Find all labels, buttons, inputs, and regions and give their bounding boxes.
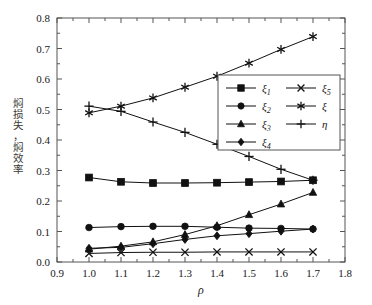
data-point-marker — [276, 165, 285, 174]
x-axis-title: ρ — [197, 283, 204, 297]
chart-legend: ξ1ξ5ξ2ξξ3ηξ4 — [218, 75, 340, 151]
x-tick-label: 0.9 — [50, 267, 64, 279]
legend-label: ξ — [322, 100, 327, 113]
data-point-marker — [238, 103, 244, 109]
data-point-marker — [245, 59, 253, 68]
data-point-marker — [150, 223, 157, 230]
data-point-marker — [181, 83, 189, 92]
y-tick-label: 0.2 — [36, 195, 50, 207]
data-point-marker — [238, 85, 244, 91]
x-tick-label: 1.2 — [146, 267, 160, 279]
x-tick-label: 1.4 — [210, 267, 224, 279]
data-point-marker — [118, 223, 125, 230]
x-tick-label: 1.5 — [242, 267, 256, 279]
data-point-marker — [86, 224, 93, 231]
y-tick-label: 0.7 — [36, 43, 50, 55]
data-point-marker — [309, 188, 316, 195]
x-tick-label: 1.8 — [338, 267, 352, 279]
data-point-marker — [182, 223, 189, 230]
x-tick-label: 1.3 — [178, 267, 192, 279]
series-line — [89, 192, 313, 249]
series-ξ3 — [85, 188, 316, 252]
x-tick-label: 1.6 — [274, 267, 288, 279]
data-point-marker — [277, 45, 285, 54]
data-point-marker — [149, 94, 157, 103]
y-tick-label: 0.5 — [36, 104, 50, 116]
data-point-marker — [244, 152, 253, 161]
data-point-marker — [118, 178, 125, 185]
y-tick-label: 0.8 — [36, 12, 50, 24]
y-axis-title: 焖损失，焖效率 — [13, 97, 24, 175]
y-tick-label: 0.6 — [36, 73, 50, 85]
x-tick-label: 1.0 — [82, 267, 96, 279]
data-point-marker — [180, 128, 189, 137]
data-point-marker — [278, 178, 285, 185]
y-tick-label: 0.3 — [36, 165, 50, 177]
legend-label: η — [322, 118, 327, 130]
chart-figure: 0.91.01.11.21.31.41.51.61.71.80.00.10.20… — [0, 0, 372, 305]
y-tick-label: 0.1 — [36, 226, 50, 238]
data-point-marker — [86, 174, 93, 181]
data-point-marker — [84, 102, 93, 111]
x-tick-label: 1.7 — [306, 267, 320, 279]
exergy-loss-efficiency-line-chart: 0.91.01.11.21.31.41.51.61.71.80.00.10.20… — [0, 0, 372, 305]
y-tick-label: 0.4 — [36, 134, 50, 146]
data-point-marker — [246, 179, 253, 186]
series-ξ1 — [86, 174, 317, 186]
data-point-marker — [150, 180, 157, 187]
data-point-marker — [182, 180, 189, 187]
data-point-marker — [214, 232, 220, 240]
data-point-marker — [309, 32, 317, 41]
data-point-marker — [214, 179, 221, 186]
y-tick-label: 0.0 — [36, 256, 50, 268]
data-point-marker — [148, 117, 157, 126]
y-axis-title-char: 率 — [13, 163, 23, 175]
x-tick-label: 1.1 — [114, 267, 128, 279]
